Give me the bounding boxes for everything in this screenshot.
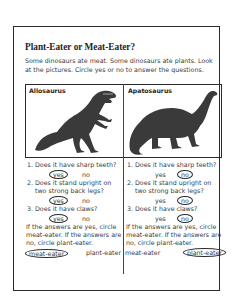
- answer-yes[interactable]: yes: [155, 171, 166, 178]
- question-2-line1: 2. Does it stand upright on: [127, 179, 211, 187]
- question-3: 3. Does it have claws?: [127, 205, 197, 213]
- answer-no[interactable]: no: [82, 215, 90, 222]
- answer-no[interactable]: no: [82, 197, 90, 204]
- meat-eater-choice-circled[interactable]: meat-eater: [25, 249, 68, 258]
- worksheet-title: Plant-Eater or Meat-Eater?: [25, 42, 135, 52]
- answer-yes-circled[interactable]: yes: [49, 214, 68, 223]
- comparison-table: Allosaurus Apatosaurus 1. Does it have s…: [25, 84, 222, 274]
- apatosaurus-illustration: [126, 88, 220, 156]
- allosaurus-illustration: [33, 88, 121, 156]
- meat-eater-choice[interactable]: meat-eater: [125, 249, 160, 256]
- question-1: 1. Does it have sharp teeth?: [127, 161, 216, 169]
- question-2-line2: two strong back legs?: [135, 187, 204, 195]
- answer-yes-circled[interactable]: yes: [49, 170, 68, 179]
- answer-no-circled[interactable]: no: [177, 170, 193, 179]
- plant-eater-choice-circled[interactable]: plant-eater: [183, 248, 226, 257]
- answer-no-circled[interactable]: no: [177, 196, 193, 205]
- answer-no[interactable]: no: [82, 171, 90, 178]
- question-3: 3. Does it have claws?: [27, 205, 97, 213]
- answer-yes-circled[interactable]: yes: [49, 196, 68, 205]
- question-2-line2: two strong back legs?: [35, 187, 104, 195]
- instruction-text: If the answers are yes, circle meat-eate…: [26, 223, 122, 246]
- answer-yes[interactable]: yes: [155, 215, 166, 222]
- answer-no-circled[interactable]: no: [177, 214, 193, 223]
- plant-eater-choice[interactable]: plant-eater: [86, 249, 121, 256]
- worksheet-intro: Some dinosaurs ate meat. Some dinosaurs …: [25, 57, 221, 74]
- question-2-line1: 2. Does it stand upright on: [27, 179, 111, 187]
- answer-yes[interactable]: yes: [155, 197, 166, 204]
- column-divider: [123, 84, 124, 274]
- instruction-text: If the answers are yes, circle meat-eate…: [126, 223, 222, 246]
- question-1: 1. Does it have sharp teeth?: [27, 161, 116, 169]
